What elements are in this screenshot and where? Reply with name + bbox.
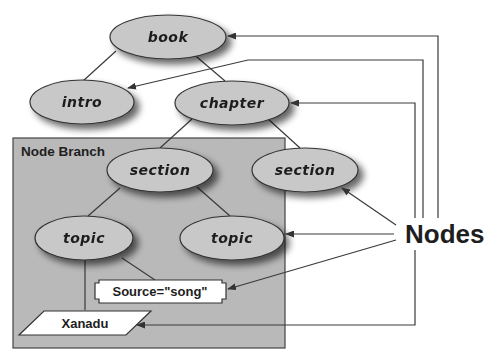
attribute-source-label: Source="song"	[112, 284, 207, 299]
node-branch-label: Node Branch	[21, 144, 105, 159]
edge-book-intro	[83, 51, 116, 81]
pointer-to-section-right	[342, 188, 396, 225]
node-topic-right: topic	[180, 216, 284, 260]
node-chapter-label: chapter	[200, 95, 265, 111]
node-topic-left: topic	[35, 216, 133, 260]
node-chapter: chapter	[175, 81, 289, 125]
node-intro-label: intro	[62, 94, 102, 110]
node-section-left-label: section	[130, 162, 191, 178]
node-book-label: book	[148, 29, 190, 45]
nodes-callout-label: Nodes	[405, 219, 484, 249]
node-topic-right-label: topic	[211, 230, 253, 246]
node-section-right-label: section	[275, 162, 336, 178]
text-node-xanadu-label: Xanadu	[62, 316, 109, 331]
xml-tree-diagram: Node Branch book intro chapter section	[0, 0, 485, 361]
node-intro: intro	[30, 80, 134, 124]
node-section-right: section	[252, 148, 358, 192]
node-topic-left-label: topic	[63, 230, 105, 246]
node-book: book	[110, 15, 226, 59]
node-section-left: section	[107, 148, 213, 192]
attribute-source-box: Source="song"	[95, 280, 226, 303]
